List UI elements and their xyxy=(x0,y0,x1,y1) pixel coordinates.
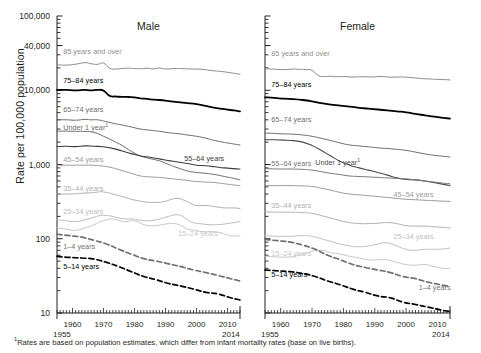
series-label-footnote-marker: 1 xyxy=(357,157,360,163)
series-line xyxy=(265,212,450,228)
series-label: 55–64 years xyxy=(271,159,311,168)
series-label: 85 years and over xyxy=(63,47,121,56)
panel-title-male: Male xyxy=(57,20,240,32)
series-label-footnote-marker: 1 xyxy=(105,122,108,128)
series-label: 65–74 years xyxy=(271,115,311,124)
series-label: 35–44 years xyxy=(271,201,311,210)
series-label: 5–14 years xyxy=(271,270,307,279)
x-axis-tick-label: 2010 xyxy=(421,320,453,329)
series-label: 15–24 years xyxy=(271,249,311,258)
series-label: 55–64 years xyxy=(184,154,224,163)
series-label: 25–34 years xyxy=(394,232,434,241)
x-axis-tick-label: 1980 xyxy=(119,320,151,329)
series-line xyxy=(265,169,450,184)
panel-title-female: Female xyxy=(265,20,450,32)
series-line xyxy=(57,165,240,185)
x-axis-tick-label: 1960 xyxy=(265,320,297,329)
series-line xyxy=(265,69,450,80)
x-axis-tick-label: 1990 xyxy=(150,320,182,329)
x-axis-tick-label: 2010 xyxy=(212,320,244,329)
series-label: 75–84 years xyxy=(271,80,311,89)
series-line xyxy=(57,215,240,225)
series-label: 85 years and over xyxy=(271,49,329,58)
series-label: 65–74 years xyxy=(63,105,103,114)
x-axis-tick-label: 1960 xyxy=(57,320,89,329)
x-axis-tick-label: 1970 xyxy=(296,320,328,329)
series-label: 35–44 years xyxy=(63,184,103,193)
x-axis-tick-label: 1980 xyxy=(327,320,359,329)
series-label: 75–84 years xyxy=(63,76,103,85)
series-label-text: Under 1 year xyxy=(63,123,105,132)
x-axis-tick-label: 2000 xyxy=(390,320,422,329)
x-axis-tick-label: 2000 xyxy=(181,320,213,329)
x-axis-tick-label: 1970 xyxy=(88,320,120,329)
series-label: Under 1 year1 xyxy=(63,122,108,132)
series-label: 15–24 years xyxy=(178,229,218,238)
series-line xyxy=(265,133,450,157)
footnote-text: Rates are based on population estimates,… xyxy=(17,338,356,347)
series-line xyxy=(57,63,240,75)
series-label: 25–34 years xyxy=(63,207,103,216)
series-label: 45–54 years xyxy=(394,190,434,199)
figure-root: Rate per 100,000 population 101001,00010… xyxy=(0,0,481,353)
x-axis-end-label: 2014 xyxy=(432,330,450,339)
x-axis-tick-label: 1990 xyxy=(359,320,391,329)
series-label: 5–14 years xyxy=(63,262,99,271)
series-label-text: Under 1 year xyxy=(315,158,357,167)
series-label: 1–4 years xyxy=(63,242,95,251)
series-label: 1–4 years xyxy=(419,283,451,292)
series-label: 45–54 years xyxy=(63,155,103,164)
footnote: 1Rates are based on population estimates… xyxy=(14,336,356,347)
series-label: Under 1 year1 xyxy=(315,157,360,167)
